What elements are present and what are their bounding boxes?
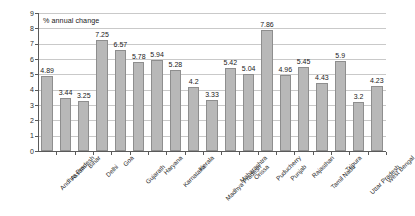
x-axis-label: Delhi [104,163,119,178]
x-axis-label: Haryana [162,154,184,176]
bar [225,68,236,151]
bar [60,98,71,151]
plot-area: % annual change 0123456789 4.893.443.257… [38,13,386,152]
y-tick-label: 0 [21,148,34,155]
x-axis-line [38,151,386,152]
bar [261,30,272,151]
x-axis-label: Assam [69,163,88,182]
x-axis-label: Rajasthan [310,154,335,179]
bar [335,61,346,151]
bar-value-label: 6.57 [106,41,134,48]
y-tick-label: 4 [21,86,34,93]
y-axis-line [38,13,39,152]
bar [316,83,327,151]
x-axis-labels: Andhra PradeshAssamBiharDelhiGoaGujarath… [38,154,386,216]
bar-value-label: 5.94 [143,51,171,58]
gridline [39,28,386,29]
bar-value-label: 3.25 [70,92,98,99]
bar [280,75,291,151]
bar-value-label: 5.28 [161,61,189,68]
x-axis-label: Kerala [197,154,215,172]
x-tick-mark [386,152,387,155]
y-tick-label: 1 [21,132,34,139]
bar [206,100,217,151]
bar-value-label: 4.23 [363,77,391,84]
bar [151,60,162,151]
bar [41,76,52,151]
bar-value-label: 7.86 [253,21,281,28]
chart-title: % annual change [43,16,99,25]
bar [243,74,254,151]
bar-value-label: 4.43 [308,74,336,81]
gridline [39,13,386,14]
y-tick-label: 9 [21,10,34,17]
bar-value-label: 4.96 [271,66,299,73]
y-tick-label: 7 [21,40,34,47]
x-axis-label: Gujarath [144,163,166,185]
y-tick-label: 8 [21,25,34,32]
bar [115,50,126,151]
gridline [39,44,386,45]
bar-value-label: 7.25 [88,31,116,38]
y-tick-label: 5 [21,71,34,78]
bar-value-label: 4.2 [180,78,208,85]
y-tick-label: 6 [21,56,34,63]
bar [353,102,364,151]
bar-value-label: 5.04 [235,65,263,72]
y-tick-label: 3 [21,102,34,109]
bar [78,101,89,151]
bar [96,40,107,151]
bar [133,62,144,151]
bar-value-label: 5.9 [326,52,354,59]
bar-value-label: 5.45 [290,58,318,65]
bar-value-label: 3.33 [198,91,226,98]
y-tick-label: 2 [21,117,34,124]
x-axis-label: Goa [122,154,135,167]
bar-value-label: 3.2 [345,93,373,100]
bar [371,86,382,151]
